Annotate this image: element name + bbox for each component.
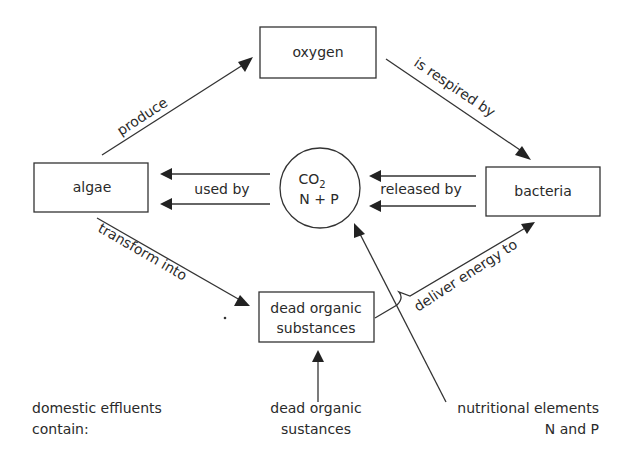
arrowhead-icon (234, 295, 250, 306)
node-algae: algae (34, 163, 148, 212)
node-dead-organic: dead organic substances (259, 292, 374, 342)
stray-dot (224, 317, 227, 320)
arrowhead-icon (160, 198, 172, 210)
edge-released-by-label: released by (380, 181, 462, 197)
edge-used-by-label: used by (194, 181, 249, 197)
node-co2-np: CO2 N + P (280, 148, 360, 228)
edge-released-by: released by (369, 170, 476, 212)
node-algae-label: algae (73, 179, 112, 195)
node-bacteria: bacteria (486, 167, 600, 216)
input-nutritional-line1: nutritional elements (457, 400, 599, 416)
arrowhead-icon (521, 222, 535, 234)
node-np-label: N + P (299, 191, 339, 207)
edge-input-dead-organic (312, 350, 324, 402)
node-dead-organic-line1: dead organic (270, 300, 361, 316)
edge-used-by: used by (160, 168, 270, 210)
diagram-canvas: oxygen algae bacteria CO2 N + P dead org… (0, 0, 635, 462)
edge-deliver-energy: deliver energy to (375, 222, 535, 318)
node-dead-organic-line2: substances (277, 320, 356, 336)
edge-deliver-label: deliver energy to (411, 236, 520, 315)
inputs-header-line1: domestic effluents (32, 400, 162, 416)
arrowhead-icon (160, 168, 172, 180)
arrowhead-icon (354, 223, 365, 238)
edge-produce: produce (102, 57, 253, 155)
edge-respired: is respired by (386, 54, 531, 160)
edge-transform-label: transform into (96, 220, 191, 284)
input-dead-organic-line1: dead organic (270, 400, 361, 416)
inputs-header-line2: contain: (32, 421, 89, 437)
arrowhead-icon (369, 170, 381, 182)
edge-respired-label: is respired by (411, 54, 498, 120)
input-nutritional-line2: N and P (545, 421, 599, 437)
node-oxygen-label: oxygen (292, 44, 343, 60)
node-oxygen: oxygen (260, 27, 376, 78)
edge-transform: transform into (96, 218, 251, 306)
node-bacteria-label: bacteria (514, 183, 572, 199)
arrowhead-icon (238, 57, 253, 72)
arrowhead-icon (312, 350, 324, 362)
input-dead-organic-line2: sustances (281, 421, 351, 437)
arrowhead-icon (369, 200, 381, 212)
